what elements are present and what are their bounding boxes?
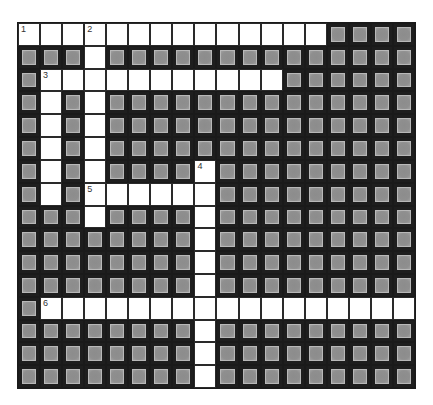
crossword-cell[interactable]: [40, 137, 62, 160]
blocked-cell: [283, 251, 305, 274]
crossword-cell[interactable]: [84, 46, 106, 69]
crossword-cell[interactable]: [62, 69, 84, 92]
blocked-cell: [327, 320, 349, 343]
blocked-cell: [239, 183, 261, 206]
blocked-cell: [349, 46, 371, 69]
crossword-cell[interactable]: [371, 297, 393, 320]
blocked-cell: [349, 274, 371, 297]
blocked-cell: [327, 342, 349, 365]
blocked-cell: [172, 160, 194, 183]
crossword-cell[interactable]: [84, 206, 106, 229]
crossword-cell[interactable]: [393, 297, 415, 320]
blocked-cell: [18, 183, 40, 206]
blocked-cell: [172, 137, 194, 160]
crossword-cell[interactable]: [40, 183, 62, 206]
crossword-cell[interactable]: [283, 297, 305, 320]
crossword-cell[interactable]: [239, 69, 261, 92]
crossword-cell[interactable]: [194, 183, 216, 206]
crossword-cell[interactable]: 6: [40, 297, 62, 320]
crossword-cell[interactable]: [172, 23, 194, 46]
crossword-cell[interactable]: [194, 297, 216, 320]
blocked-cell: [371, 183, 393, 206]
crossword-cell[interactable]: 4: [194, 160, 216, 183]
crossword-cell[interactable]: [172, 69, 194, 92]
crossword-cell[interactable]: [40, 160, 62, 183]
crossword-cell[interactable]: [194, 342, 216, 365]
clue-number: 3: [43, 70, 48, 80]
crossword-cell[interactable]: [106, 23, 128, 46]
blocked-cell: [150, 228, 172, 251]
blocked-cell: [172, 342, 194, 365]
crossword-cell[interactable]: [261, 23, 283, 46]
crossword-cell[interactable]: [194, 320, 216, 343]
crossword-cell[interactable]: [216, 297, 238, 320]
blocked-cell: [327, 23, 349, 46]
crossword-cell[interactable]: [349, 297, 371, 320]
crossword-cell[interactable]: [62, 23, 84, 46]
crossword-grid: 123456: [17, 22, 416, 389]
blocked-cell: [261, 274, 283, 297]
crossword-cell[interactable]: [305, 23, 327, 46]
blocked-cell: [128, 91, 150, 114]
crossword-cell[interactable]: [128, 297, 150, 320]
crossword-cell[interactable]: [216, 23, 238, 46]
blocked-cell: [128, 342, 150, 365]
crossword-cell[interactable]: [106, 297, 128, 320]
crossword-cell[interactable]: [106, 183, 128, 206]
crossword-cell[interactable]: 2: [84, 23, 106, 46]
crossword-cell[interactable]: [194, 69, 216, 92]
crossword-cell[interactable]: [84, 160, 106, 183]
crossword-cell[interactable]: [150, 297, 172, 320]
crossword-cell[interactable]: [305, 297, 327, 320]
crossword-cell[interactable]: [84, 69, 106, 92]
blocked-cell: [216, 251, 238, 274]
crossword-cell[interactable]: [106, 69, 128, 92]
blocked-cell: [327, 365, 349, 388]
crossword-cell[interactable]: [261, 69, 283, 92]
blocked-cell: [283, 69, 305, 92]
crossword-cell[interactable]: 5: [84, 183, 106, 206]
blocked-cell: [327, 69, 349, 92]
crossword-cell[interactable]: 1: [18, 23, 40, 46]
blocked-cell: [283, 183, 305, 206]
crossword-cell[interactable]: [62, 297, 84, 320]
crossword-cell[interactable]: [194, 274, 216, 297]
crossword-cell[interactable]: [194, 206, 216, 229]
crossword-cell[interactable]: [239, 23, 261, 46]
crossword-cell[interactable]: [194, 228, 216, 251]
crossword-cell[interactable]: [40, 114, 62, 137]
blocked-cell: [371, 137, 393, 160]
crossword-cell[interactable]: [128, 23, 150, 46]
crossword-cell[interactable]: [150, 183, 172, 206]
blocked-cell: [128, 137, 150, 160]
blocked-cell: [40, 365, 62, 388]
crossword-cell[interactable]: [261, 297, 283, 320]
blocked-cell: [216, 206, 238, 229]
crossword-cell[interactable]: [84, 91, 106, 114]
crossword-cell[interactable]: [40, 23, 62, 46]
crossword-cell[interactable]: [216, 69, 238, 92]
blocked-cell: [18, 274, 40, 297]
crossword-cell[interactable]: 3: [40, 69, 62, 92]
crossword-cell[interactable]: [327, 297, 349, 320]
blocked-cell: [62, 320, 84, 343]
crossword-cell[interactable]: [150, 23, 172, 46]
crossword-cell[interactable]: [84, 137, 106, 160]
crossword-cell[interactable]: [150, 69, 172, 92]
crossword-cell[interactable]: [172, 297, 194, 320]
crossword-cell[interactable]: [172, 183, 194, 206]
blocked-cell: [283, 365, 305, 388]
crossword-cell[interactable]: [194, 365, 216, 388]
crossword-cell[interactable]: [283, 23, 305, 46]
crossword-cell[interactable]: [194, 23, 216, 46]
crossword-cell[interactable]: [40, 91, 62, 114]
crossword-cell[interactable]: [84, 114, 106, 137]
crossword-cell[interactable]: [239, 297, 261, 320]
crossword-cell[interactable]: [128, 183, 150, 206]
crossword-cell[interactable]: [84, 297, 106, 320]
blocked-cell: [150, 251, 172, 274]
crossword-cell[interactable]: [128, 69, 150, 92]
crossword-cell[interactable]: [194, 251, 216, 274]
blocked-cell: [18, 91, 40, 114]
blocked-cell: [62, 365, 84, 388]
